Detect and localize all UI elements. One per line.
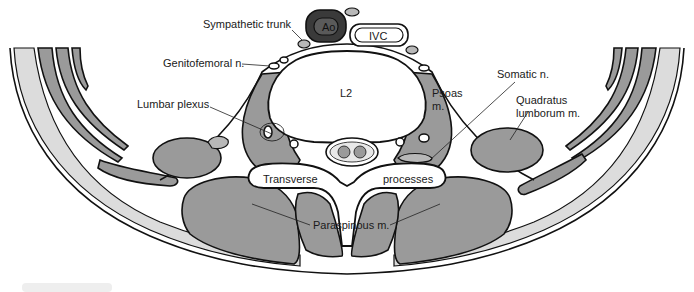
left-paraspinous-lateral [182,177,300,264]
leader-sympathetic-trunk [292,30,302,40]
nerve-root-left [290,140,298,148]
label-lumbar-plexus: Lumbar plexus [137,98,210,110]
anatomy-svg: Sympathetic trunk Ao IVC Genitofemoral n… [0,0,694,292]
label-somatic: Somatic n. [497,68,549,80]
cauda-equina-right [354,146,366,158]
genitofemoral-nerve-right [419,65,429,71]
sympathetic-trunk-left [298,40,310,48]
lumbar-plexus-nerve-right [419,134,429,142]
label-paraspinous: Paraspinous m. [313,219,389,231]
shadow-artifact [22,283,112,292]
label-processes: processes [383,173,434,185]
label-psoas-2: m. [432,100,444,112]
right-quadratus-lumborum [471,128,543,172]
label-quadratus-2: lumborum m. [516,107,580,119]
cauda-equina-left [338,146,350,158]
label-psoas-1: Psoas [432,87,463,99]
dural-sac [330,142,374,162]
lateral-fat-blob [208,136,228,148]
label-ivc: IVC [369,30,387,42]
lymph-node [345,8,359,16]
genitofemoral-nerve-left-b [280,57,288,63]
sympathetic-trunk-right [406,46,418,54]
right-paraspinous-lateral [395,177,513,264]
label-transverse: Transverse [263,173,318,185]
label-aorta: Ao [322,21,335,33]
label-genitofemoral: Genitofemoral n. [163,57,244,69]
leader-genitofemoral [242,64,270,66]
label-vertebra: L2 [340,87,352,99]
label-quadratus-1: Quadratus [516,94,568,106]
somatic-nerve [398,154,432,163]
label-sympathetic-trunk: Sympathetic trunk [203,18,292,30]
genitofemoral-nerve-left-a [269,63,279,69]
l2-cross-section-diagram: Sympathetic trunk Ao IVC Genitofemoral n… [0,0,694,292]
nerve-root-right [396,138,404,146]
